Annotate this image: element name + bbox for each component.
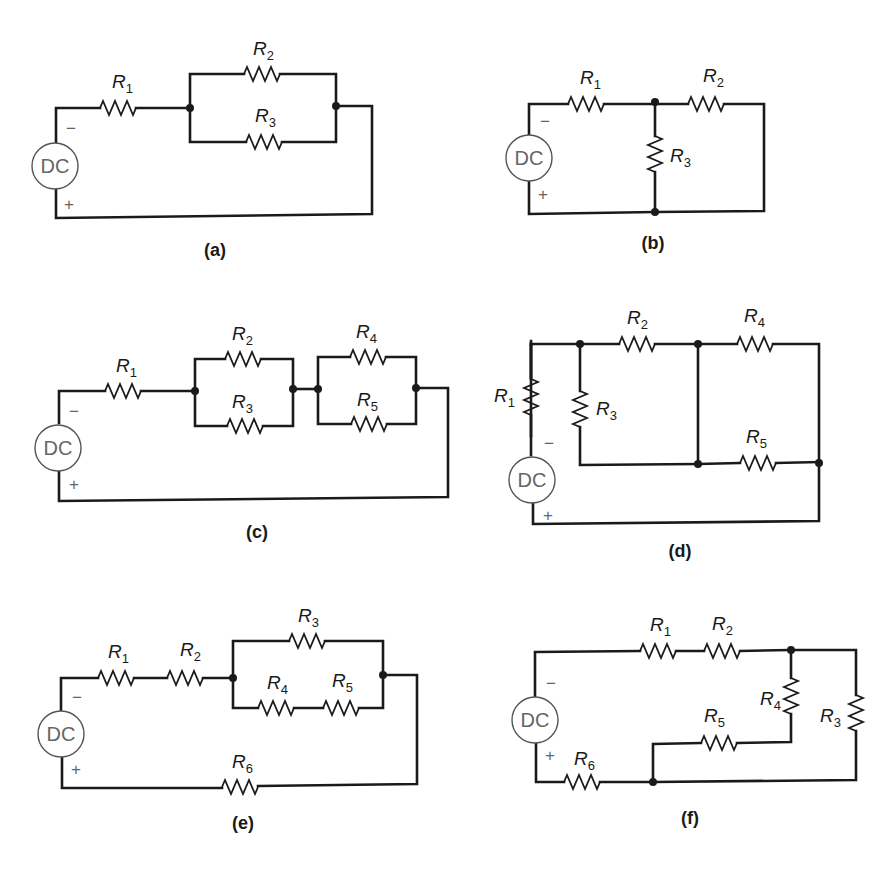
plus-terminal: + xyxy=(543,506,553,525)
resistor-r5 xyxy=(323,701,359,715)
label-r2: R2 xyxy=(627,307,648,332)
dc-source-label: DC xyxy=(518,469,547,491)
label-r2: R2 xyxy=(232,323,253,348)
junction-dot xyxy=(576,340,584,348)
resistor-r3 xyxy=(289,634,325,648)
plus-terminal: + xyxy=(538,185,548,204)
circuit-d: DC − + R1 R2 R3 R4 R5 (d) xyxy=(494,305,823,561)
resistor-r5 xyxy=(701,736,737,750)
resistor-r2 xyxy=(167,671,203,685)
resistor-r3 xyxy=(648,136,662,172)
resistor-r4 xyxy=(784,678,798,714)
circuit-a: DC − + R1 R2 R3 (a) xyxy=(32,38,372,260)
resistor-r1 xyxy=(524,379,538,415)
plus-terminal: + xyxy=(69,475,79,494)
label-r4: R4 xyxy=(744,305,765,330)
caption-f: (f) xyxy=(681,808,699,828)
junction-dot xyxy=(412,384,420,392)
resistor-r2 xyxy=(619,337,655,351)
resistor-r6 xyxy=(222,780,258,794)
label-r2: R2 xyxy=(712,613,733,638)
label-r5: R5 xyxy=(357,389,378,414)
dc-source-label: DC xyxy=(47,723,76,745)
minus-terminal: − xyxy=(72,688,82,707)
circuit-figure: DC − + R1 R2 R3 (a) DC − + R1 R2 R3 (b) xyxy=(0,0,891,870)
label-r6: R6 xyxy=(232,751,253,776)
circuit-f: DC − + R1 R2 R3 R4 R5 R6 (f) xyxy=(512,613,863,828)
caption-d: (d) xyxy=(669,541,692,561)
junction-dot xyxy=(649,778,657,786)
junction-dot xyxy=(651,208,659,216)
junction-dot xyxy=(379,671,387,679)
label-r6: R6 xyxy=(574,748,595,773)
resistor-r2 xyxy=(688,97,724,111)
resistor-r3 xyxy=(573,391,587,427)
plus-terminal: + xyxy=(71,760,81,779)
resistor-r2 xyxy=(704,644,740,658)
circuit-e: DC − + R1 R2 R3 R4 R5 R6 (e) xyxy=(38,605,417,833)
dc-source-label: DC xyxy=(515,147,544,169)
dc-source-label: DC xyxy=(41,155,70,177)
label-r4: R4 xyxy=(267,672,288,697)
label-r5: R5 xyxy=(332,670,353,695)
label-r1: R1 xyxy=(650,614,671,639)
resistor-r4 xyxy=(258,701,294,715)
label-r4: R4 xyxy=(356,321,377,346)
resistor-r5 xyxy=(740,456,776,470)
dc-source-label: DC xyxy=(521,709,550,731)
minus-terminal: − xyxy=(546,674,556,693)
junction-dot xyxy=(815,459,823,467)
resistor-r5 xyxy=(351,417,387,431)
resistor-r6 xyxy=(564,775,600,789)
caption-b: (b) xyxy=(642,233,665,253)
resistor-r3 xyxy=(227,419,263,433)
junction-dot xyxy=(694,340,702,348)
label-r2: R2 xyxy=(253,38,274,63)
label-r3: R3 xyxy=(820,705,841,730)
resistor-r1 xyxy=(568,97,604,111)
resistor-r4 xyxy=(350,350,386,364)
label-r3: R3 xyxy=(255,105,276,130)
resistor-r3 xyxy=(246,135,282,149)
junction-dot xyxy=(651,98,659,106)
minus-terminal: − xyxy=(69,402,79,421)
caption-a: (a) xyxy=(204,240,226,260)
label-r1: R1 xyxy=(494,385,515,410)
label-r2: R2 xyxy=(180,639,201,664)
dc-source-label: DC xyxy=(44,437,73,459)
resistor-r1 xyxy=(100,101,136,115)
label-r3: R3 xyxy=(298,605,319,630)
label-r5: R5 xyxy=(746,426,767,451)
junction-dot xyxy=(332,102,340,110)
label-r2: R2 xyxy=(703,65,724,90)
label-r3: R3 xyxy=(596,398,617,423)
plus-terminal: + xyxy=(64,195,74,214)
resistor-r1 xyxy=(98,671,134,685)
junction-dot xyxy=(289,385,297,393)
plus-terminal: + xyxy=(545,746,555,765)
label-r1: R1 xyxy=(116,355,137,380)
caption-c: (c) xyxy=(246,522,268,542)
resistor-r3 xyxy=(849,695,863,731)
label-r3: R3 xyxy=(232,391,253,416)
resistor-r2 xyxy=(225,352,261,366)
label-r5: R5 xyxy=(704,705,725,730)
label-r4: R4 xyxy=(760,688,781,713)
junction-dot xyxy=(314,385,322,393)
circuit-c: DC − + R1 R2 R3 R4 R5 (c) xyxy=(35,321,448,542)
junction-dot xyxy=(694,460,702,468)
minus-terminal: − xyxy=(66,119,76,138)
minus-terminal: − xyxy=(540,112,550,131)
resistor-r2 xyxy=(244,67,280,81)
junction-dot xyxy=(787,646,795,654)
label-r1: R1 xyxy=(112,71,133,96)
caption-e: (e) xyxy=(232,813,254,833)
label-r3: R3 xyxy=(670,145,691,170)
junction-dot xyxy=(229,674,237,682)
circuit-b: DC − + R1 R2 R3 (b) xyxy=(506,65,764,253)
label-r1: R1 xyxy=(580,67,601,92)
resistor-r4 xyxy=(737,337,773,351)
minus-terminal: − xyxy=(544,434,554,453)
resistor-r1 xyxy=(640,644,676,658)
junction-dot xyxy=(191,387,199,395)
